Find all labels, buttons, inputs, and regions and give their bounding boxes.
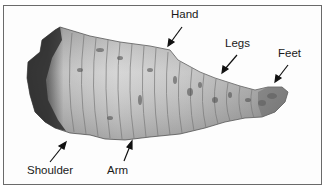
arrow-hand <box>168 27 182 46</box>
label-feet: Feet <box>278 48 301 60</box>
specimen-photo <box>0 0 326 190</box>
arrow-shoulder <box>50 142 66 162</box>
arrow-feet <box>275 65 288 82</box>
arrow-legs <box>222 55 237 73</box>
label-arm: Arm <box>107 165 128 177</box>
arrow-arm <box>124 141 132 161</box>
label-legs: Legs <box>225 38 250 50</box>
label-shoulder: Shoulder <box>27 165 73 177</box>
label-hand: Hand <box>171 9 199 21</box>
